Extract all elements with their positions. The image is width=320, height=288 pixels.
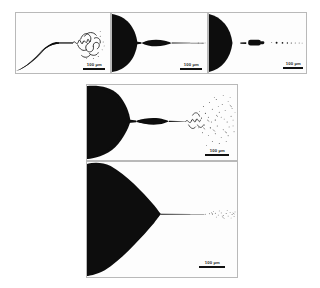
scale-bar-panel-2: 100 µm (180, 63, 202, 70)
scale-bar-label-panel-3: 100 µm (286, 62, 301, 66)
micrograph-panel-1: 100 µm (15, 12, 111, 74)
scale-bar-label-panel-4: 100 µm (210, 149, 225, 153)
micrograph-panel-2: 100 µm (111, 12, 208, 74)
scale-bar-label-panel-5: 100 µm (205, 261, 220, 265)
scale-bar-panel-1: 100 µm (83, 63, 105, 70)
scale-bar-label-panel-1: 100 µm (87, 63, 102, 67)
scale-bar-panel-5: 100 µm (199, 261, 225, 268)
micrograph-panel-3: 100 µm (208, 12, 307, 74)
scale-bar-line-panel-1 (83, 68, 105, 70)
scale-bar-panel-3: 100 µm (283, 62, 303, 69)
scale-bar-line-panel-3 (283, 67, 303, 69)
figure-panel-array: 100 µm 100 µm (0, 0, 320, 288)
scale-bar-line-panel-5 (199, 266, 225, 268)
scale-bar-line-panel-2 (180, 68, 202, 70)
scale-bar-label-panel-2: 100 µm (184, 63, 199, 67)
micrograph-panel-5: 100 µm (86, 161, 238, 278)
micrograph-panel-4: 100 µm (86, 84, 238, 161)
scale-bar-panel-4: 100 µm (205, 149, 229, 156)
scale-bar-line-panel-4 (205, 154, 229, 156)
